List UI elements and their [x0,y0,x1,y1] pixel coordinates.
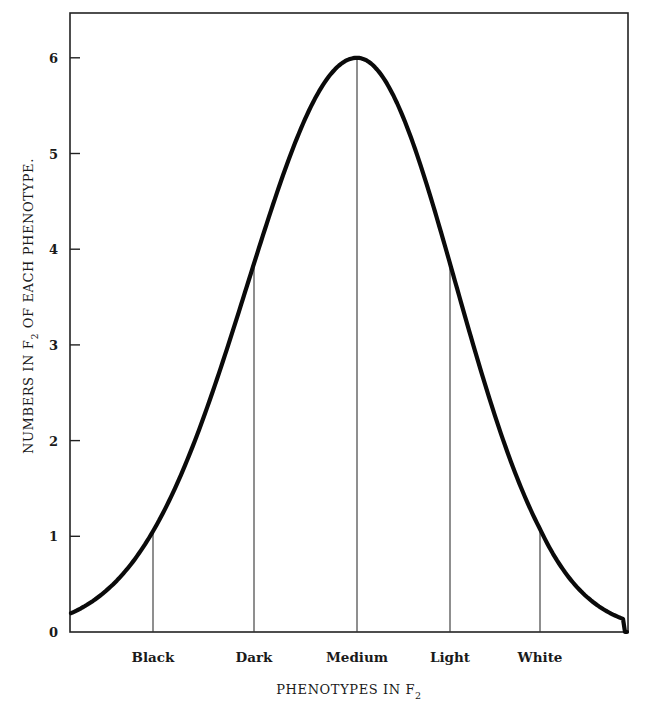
x-label-dark: Dark [236,649,274,665]
y-axis-title: NUMBERS IN F2 OF EACH PHENOTYPE. [21,158,40,454]
y-tick-label: 3 [49,338,58,353]
x-label-white: White [517,649,563,665]
distribution-curve [71,58,627,632]
y-tick-label: 2 [49,434,58,449]
y-axis-ticks: 0123456 [49,51,80,640]
x-label-medium: Medium [326,649,388,665]
x-label-light: Light [430,649,471,665]
x-label-black: Black [132,649,176,665]
y-tick-label: 4 [49,242,58,257]
y-tick-label: 5 [49,147,58,162]
y-tick-label: 6 [49,51,58,66]
phenotype-distribution-chart: 0123456 BlackDarkMediumLightWhite PHENOT… [0,0,646,715]
x-axis-title: PHENOTYPES IN F2 [276,682,421,701]
y-tick-label: 1 [49,529,58,544]
x-axis-category-labels: BlackDarkMediumLightWhite [132,649,563,665]
y-tick-label: 0 [49,625,58,640]
category-drop-lines [153,58,540,632]
